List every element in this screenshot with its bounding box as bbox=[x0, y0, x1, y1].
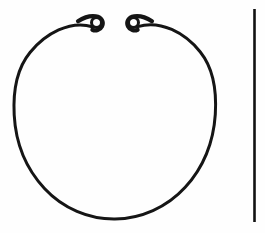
terminals-group bbox=[92, 18, 139, 28]
ring-hoop-path bbox=[14, 25, 216, 219]
ring-hoop-group bbox=[14, 16, 216, 219]
figure-plate bbox=[0, 0, 265, 233]
ring-figure-svg bbox=[0, 0, 265, 233]
left-coil-terminal-hole bbox=[93, 19, 100, 26]
right-coil-terminal-hole bbox=[130, 19, 137, 26]
